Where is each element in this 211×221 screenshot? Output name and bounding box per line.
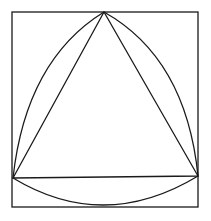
bottom-arc — [13, 176, 198, 205]
inscribed-triangle — [13, 12, 198, 178]
geometry-diagram — [0, 0, 211, 221]
